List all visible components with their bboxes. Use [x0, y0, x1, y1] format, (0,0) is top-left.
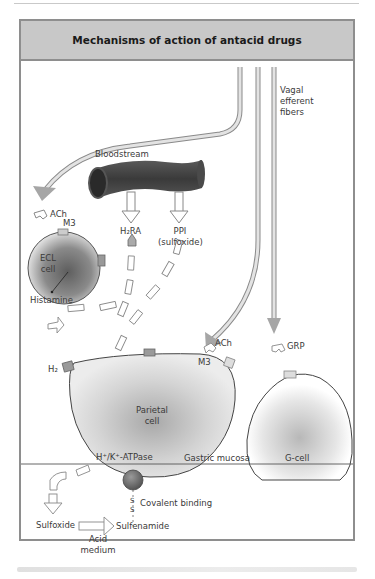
label-gastric-mucosa: Gastric mucosa: [184, 453, 250, 464]
h2-receptor-parietal-icon: [62, 361, 74, 372]
label-acid-line1: Acid: [78, 534, 118, 545]
label-acid-line2: medium: [78, 545, 118, 556]
h2ra-arrow-icon: [122, 192, 140, 223]
label-ppi: PPI (sulfoxide): [158, 226, 202, 248]
label-g-cell: G-cell: [285, 453, 309, 464]
ppi-arrow-icon: [170, 192, 188, 223]
label-sulfoxide: Sulfoxide: [36, 520, 75, 531]
label-ppi-line2: (sulfoxide): [158, 237, 202, 248]
label-disulfide: S S: [130, 497, 134, 515]
arrowhead-ach-top-icon: [33, 186, 56, 201]
label-covalent-binding: Covalent binding: [140, 498, 212, 509]
ecl-cell: [28, 232, 100, 304]
label-m3-ecl: M3: [63, 218, 76, 229]
label-s2: S: [130, 506, 134, 515]
bloodstream-vessel: [89, 160, 205, 198]
label-acid-medium: Acid medium: [78, 534, 118, 556]
vagal-fiber-2: [205, 67, 258, 350]
label-h2ra: H₂RA: [120, 226, 141, 237]
label-grp: GRP: [287, 341, 305, 352]
label-ecl-line2: cell: [40, 264, 56, 275]
label-ecl-cell: ECL cell: [40, 253, 56, 275]
label-sulfenamide: Sulfenamide: [116, 521, 169, 532]
label-histamine: Histamine: [30, 295, 73, 306]
label-parietal-line2: cell: [132, 416, 172, 427]
label-ppi-line1: PPI: [158, 226, 202, 237]
vagal-fiber-3: [267, 67, 281, 334]
figure-caption-blurred: [17, 567, 357, 572]
label-bloodstream: Bloodstream: [95, 149, 149, 160]
h2-receptor-ecl-icon: [98, 255, 105, 266]
diagram-artwork: [0, 0, 375, 579]
grp-ligand-icon: [272, 344, 285, 352]
atpase-ball-icon: [123, 470, 143, 490]
label-vagal-line3: fibers: [280, 107, 314, 118]
label-s1: S: [130, 497, 134, 506]
label-vagal: Vagal efferent fibers: [280, 85, 314, 118]
arrowhead-grp-icon: [267, 318, 281, 334]
label-parietal-cell: Parietal cell: [132, 405, 172, 427]
sulfoxide-arrows: [44, 465, 90, 514]
label-parietal-line1: Parietal: [132, 405, 172, 416]
label-m3-parietal: M3: [198, 357, 211, 368]
label-vagal-line2: efferent: [280, 96, 314, 107]
label-h2: H₂: [48, 364, 58, 375]
label-ach-mid: ACh: [215, 338, 232, 349]
gastrin-receptor-parietal-icon: [144, 349, 155, 356]
m3-receptor-ecl-icon: [58, 229, 68, 235]
label-ecl-line1: ECL: [40, 253, 56, 264]
label-vagal-line1: Vagal: [280, 85, 314, 96]
label-atpase: H⁺/K⁺-ATPase: [96, 452, 153, 463]
g-cell-receptor-icon: [284, 371, 296, 378]
ach-ligand-icon: [34, 210, 47, 219]
acid-medium-arrow-icon: [79, 517, 114, 535]
